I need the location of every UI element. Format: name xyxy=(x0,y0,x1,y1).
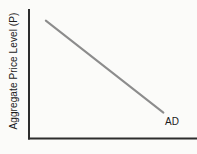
y-axis-label: Aggregate Price Level (P) xyxy=(8,12,19,129)
ad-curve-label: AD xyxy=(165,116,179,127)
chart-canvas xyxy=(0,0,197,154)
ad-demand-curve-figure: Aggregate Price Level (P) AD xyxy=(0,0,197,154)
